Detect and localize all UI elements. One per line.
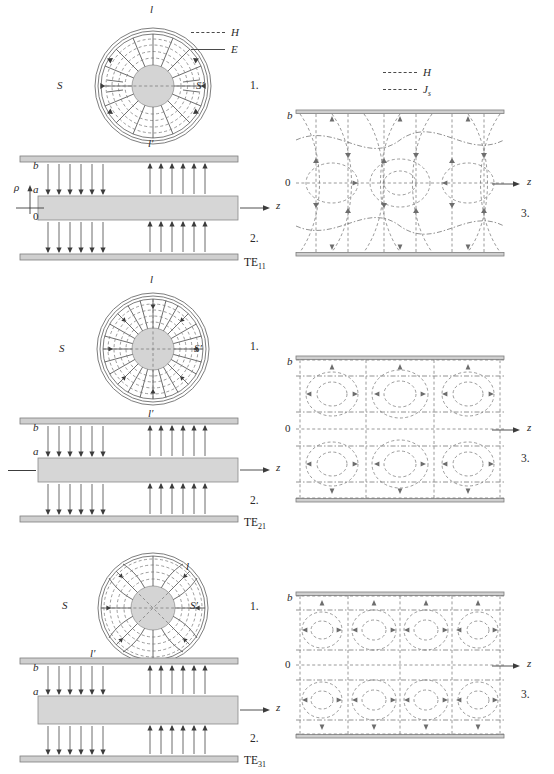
cross-label-l-row-1: l <box>150 4 153 15</box>
panel-number-cross-row-3: 1. <box>250 600 259 612</box>
legend-e-solid-swatch <box>191 49 225 50</box>
z-axis-label-wall-row-1: z <box>527 176 531 187</box>
cross-label-S-row-2: S <box>59 343 65 354</box>
legend-h-dash-swatch-right <box>383 72 417 73</box>
cross-label-l-row-3: l <box>186 561 189 572</box>
cross-section-row-1 <box>78 16 228 156</box>
wall-view-row-2 <box>296 356 504 502</box>
legend-js-dashdot-swatch <box>383 89 417 90</box>
panel-number-long-row-2: 2. <box>250 494 259 506</box>
mode-label-row-3: TE31 <box>244 754 266 769</box>
wall-view-row-3 <box>296 592 504 738</box>
origin-label-row-1: 0 <box>33 211 39 222</box>
cross-label-Sprime-row-3: S′ <box>190 600 198 611</box>
axis-tick-row-2 <box>8 470 36 475</box>
figure-canvas: l l′ S S′ H E 1. <box>0 0 554 774</box>
rho-axis-label-row-1: ρ <box>14 182 19 193</box>
mode-name-row-3: TE <box>244 754 258 766</box>
legend-e-label: E <box>231 43 238 55</box>
wall-label-zero-row-2: 0 <box>285 423 291 434</box>
panel-number-long-row-3: 2. <box>250 732 259 744</box>
cross-label-Sprime-row-2: S′ <box>194 343 202 354</box>
radius-label-b-row-3: b <box>33 662 39 673</box>
mode-sub-row-1: 11 <box>258 262 266 271</box>
longitudinal-section-row-2 <box>20 418 238 522</box>
longitudinal-section-row-3 <box>20 658 238 762</box>
cross-label-l-row-2: l <box>150 274 153 285</box>
mode-sub-row-2: 21 <box>258 522 266 531</box>
radius-label-a-row-3: a <box>33 686 39 697</box>
cross-label-S-row-1: S <box>57 80 63 91</box>
wall-label-b-row-2: b <box>287 356 293 367</box>
panel-number-cross-row-2: 1. <box>250 340 259 352</box>
mode-label-row-1: TE11 <box>244 256 266 271</box>
z-arrow-long-row-2 <box>240 464 274 476</box>
legend-h-dash-swatch <box>191 32 225 33</box>
wall-label-b-row-1: b <box>287 110 293 121</box>
longitudinal-section-row-1 <box>20 156 238 260</box>
wall-label-zero-row-1: 0 <box>285 177 291 188</box>
cross-label-lprime-row-1: l′ <box>148 138 153 149</box>
legend-js-sub: s <box>428 89 431 98</box>
panel-number-wall-row-2: 3. <box>521 452 530 464</box>
mode-name-row-1: TE <box>244 256 258 268</box>
z-arrow-long-row-3 <box>240 704 274 716</box>
panel-number-wall-row-1: 3. <box>521 207 530 219</box>
mode-name-row-2: TE <box>244 516 258 528</box>
z-axis-label-wall-row-2: z <box>527 422 531 433</box>
z-axis-label-long-row-1: z <box>276 200 280 211</box>
panel-number-cross-row-1: 1. <box>250 79 259 91</box>
z-arrow-wall-row-3 <box>492 660 524 672</box>
panel-number-long-row-1: 2. <box>250 232 259 244</box>
wall-label-zero-row-3: 0 <box>285 659 291 670</box>
cross-label-S-row-3: S <box>62 600 68 611</box>
z-arrow-wall-row-2 <box>492 424 524 436</box>
wall-label-b-row-3: b <box>287 592 293 603</box>
z-axis-label-long-row-2: z <box>276 462 280 473</box>
z-arrow-long-row-1 <box>240 202 274 214</box>
mode-label-row-2: TE21 <box>244 516 266 531</box>
radius-label-b-row-2: b <box>33 422 39 433</box>
legend-h-label-right: H <box>423 66 431 78</box>
wall-view-row-1 <box>296 110 504 256</box>
z-axis-label-long-row-3: z <box>276 702 280 713</box>
radius-label-a-row-1: a <box>33 184 39 195</box>
z-arrow-wall-row-1 <box>492 178 524 190</box>
z-axis-label-wall-row-3: z <box>527 658 531 669</box>
radius-label-b-row-1: b <box>33 160 39 171</box>
cross-section-row-3 <box>78 545 228 671</box>
cross-section-row-2 <box>78 284 228 414</box>
panel-number-wall-row-3: 3. <box>521 688 530 700</box>
legend-h-label: H <box>231 26 239 38</box>
mode-sub-row-3: 31 <box>258 760 266 769</box>
radius-label-a-row-2: a <box>33 446 39 457</box>
cross-label-Sprime-row-1: S′ <box>196 80 204 91</box>
legend-js-label: Js <box>423 83 431 98</box>
